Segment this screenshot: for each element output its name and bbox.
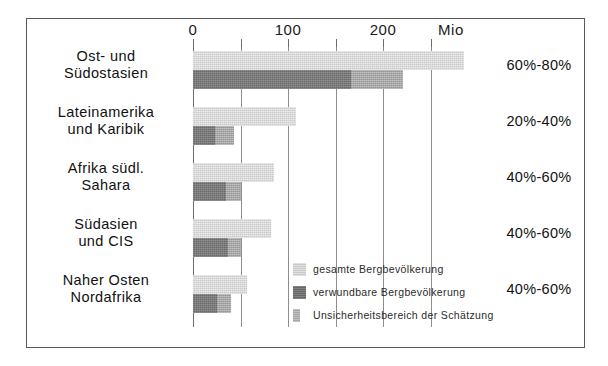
bar-total-population <box>193 107 296 126</box>
percentage-label-2: 20%-40% <box>493 113 585 129</box>
category-label-3: Afrika südl.Sahara <box>27 160 185 194</box>
category-label-1: Ost- undSüdostasien <box>27 48 185 82</box>
bar-vulnerable-population <box>193 238 228 257</box>
legend-item: Unsicherheitsbereich der Schätzung <box>293 305 543 325</box>
legend-item: gesamte Bergbevölkerung <box>293 259 543 279</box>
x-tick-label-100: 100 <box>275 21 302 38</box>
category-label-line: Afrika südl. <box>27 160 185 177</box>
legend-item-label: Unsicherheitsbereich der Schätzung <box>313 309 494 321</box>
category-label-line: Südasien <box>27 216 185 233</box>
x-axis-labels: 0100200Mio <box>27 19 586 47</box>
legend-swatch-total-icon <box>293 263 306 276</box>
bar-row <box>193 107 473 163</box>
legend-swatch-vulnerable-icon <box>293 286 306 299</box>
bar-total-population <box>193 163 274 182</box>
percentage-label-1: 60%-80% <box>493 57 585 73</box>
x-tick-label-200: 200 <box>370 21 397 38</box>
x-tick-label-0: 0 <box>189 21 198 38</box>
tickmark-150 <box>336 39 337 47</box>
bar-vulnerable-population <box>193 294 217 313</box>
bar-row <box>193 51 473 107</box>
category-label-5: Naher OstenNordafrika <box>27 272 185 306</box>
percentage-label-3: 40%-60% <box>493 169 585 185</box>
category-label-line: und CIS <box>27 233 185 250</box>
chart-frame: 0100200Mio Ost- undSüdostasienLateinamer… <box>26 18 585 348</box>
x-axis-unit-label: Mio <box>438 21 464 38</box>
legend-item-label: gesamte Bergbevölkerung <box>313 263 444 275</box>
category-label-line: Nordafrika <box>27 289 185 306</box>
category-label-line: Sahara <box>27 177 185 194</box>
legend-item-label: verwundbare Bergbevölkerung <box>313 286 465 298</box>
legend-item: verwundbare Bergbevölkerung <box>293 282 543 302</box>
percentage-label-4: 40%-60% <box>493 225 585 241</box>
bar-row <box>193 163 473 219</box>
tickmark-200 <box>383 39 384 47</box>
category-label-2: Lateinamerikaund Karibik <box>27 104 185 138</box>
bar-vulnerable-population <box>193 126 215 145</box>
category-label-line: und Karibik <box>27 121 185 138</box>
legend-swatch-uncertainty-icon <box>293 309 300 322</box>
tickmark-100 <box>288 39 289 47</box>
tickmark-50 <box>241 39 242 47</box>
chart-legend: gesamte Bergbevölkerungverwundbare Bergb… <box>293 259 543 328</box>
bar-total-population <box>193 51 464 70</box>
category-label-line: Lateinamerika <box>27 104 185 121</box>
bar-total-population <box>193 275 247 294</box>
category-label-line: Südostasien <box>27 65 185 82</box>
category-label-line: Naher Osten <box>27 272 185 289</box>
category-label-line: Ost- und <box>27 48 185 65</box>
bar-vulnerable-population <box>193 182 226 201</box>
bar-vulnerable-population <box>193 70 351 89</box>
tickmark-0 <box>193 39 194 47</box>
category-label-4: Südasienund CIS <box>27 216 185 250</box>
bar-total-population <box>193 219 271 238</box>
tickmark-250 <box>431 39 432 47</box>
